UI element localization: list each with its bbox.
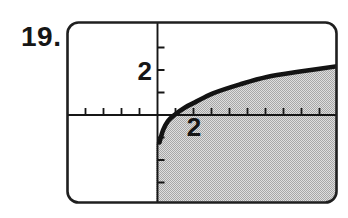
shaded-region	[156, 66, 341, 207]
textbook-figure: 19. 2 2	[0, 0, 348, 218]
graph-figure: 19. 2 2	[0, 0, 348, 218]
y-axis-label-2: 2	[138, 56, 152, 86]
x-axis-label-2: 2	[187, 112, 201, 142]
problem-number: 19.	[21, 21, 61, 52]
